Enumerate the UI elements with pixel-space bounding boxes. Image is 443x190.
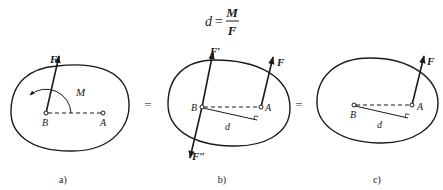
- point-a: [259, 105, 263, 109]
- point-b: [44, 111, 48, 115]
- label-b: B: [191, 102, 197, 113]
- point-b: [200, 105, 204, 109]
- force-vector-f: [261, 57, 273, 107]
- label-force-bottom: F″: [191, 150, 205, 162]
- right-angle-icon: [405, 114, 409, 118]
- caption-c: c): [373, 174, 381, 186]
- distance-line-d: [355, 106, 408, 118]
- distance-line-d: [203, 108, 257, 120]
- label-a: A: [264, 102, 272, 113]
- equals-sign-2: =: [295, 97, 302, 112]
- label-force: F′: [49, 53, 60, 65]
- point-a: [410, 103, 414, 107]
- force-vector-f: [412, 56, 424, 105]
- label-force-a: F: [426, 55, 435, 67]
- label-a: A: [99, 117, 107, 128]
- equals-sign-1: =: [144, 97, 151, 112]
- label-b: B: [350, 109, 356, 120]
- point-b: [352, 103, 356, 107]
- panel-b: F′ F F″ B A d b): [168, 45, 290, 186]
- panel-a: F′ M B A a): [11, 53, 129, 186]
- caption-a: a): [59, 174, 67, 186]
- label-distance: d: [377, 119, 383, 130]
- label-force-a: F: [276, 56, 285, 68]
- formula: d = M F: [205, 5, 239, 38]
- force-translation-diagram: d = M F F′ M B A a) =: [0, 0, 443, 190]
- label-a: A: [416, 101, 424, 112]
- panel-c: F B A d c): [317, 55, 438, 186]
- formula-denominator: F: [227, 23, 237, 38]
- right-angle-icon: [254, 116, 258, 120]
- formula-equals: =: [215, 14, 223, 29]
- formula-numerator: M: [225, 5, 238, 20]
- body-outline: [168, 60, 290, 146]
- formula-lhs: d: [205, 14, 213, 29]
- label-b: B: [42, 117, 48, 128]
- label-moment: M: [75, 86, 86, 98]
- caption-b: b): [218, 174, 226, 186]
- point-a: [101, 111, 105, 115]
- label-force-top: F′: [209, 45, 220, 57]
- label-distance: d: [225, 121, 231, 132]
